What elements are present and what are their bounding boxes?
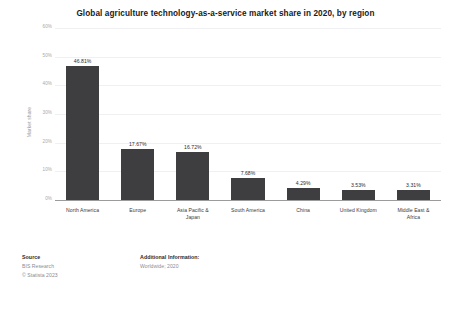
bar-slot[interactable]: 17.67% bbox=[110, 28, 165, 200]
bar-value-label: 3.31% bbox=[406, 182, 421, 188]
category-label: North America bbox=[55, 207, 110, 240]
footer-source-lines: BIS Research© Statista 2023 bbox=[22, 262, 140, 279]
bar[interactable] bbox=[121, 149, 154, 200]
bar-value-label: 17.67% bbox=[129, 141, 147, 147]
category-label: South America bbox=[220, 207, 275, 240]
bar[interactable] bbox=[397, 190, 430, 199]
plot-area: Market share 0%10%20%30%40%50%60% 46.81%… bbox=[22, 28, 441, 240]
category-label-line: South America bbox=[221, 207, 274, 215]
footer-source-block: Source BIS Research© Statista 2023 bbox=[22, 254, 140, 279]
category-label: China bbox=[276, 207, 331, 240]
bar-value-label: 46.81% bbox=[74, 58, 92, 64]
bar-value-label: 4.29% bbox=[296, 180, 311, 186]
chart-footer: Source BIS Research© Statista 2023 Addit… bbox=[22, 254, 429, 279]
category-label-line: Japan bbox=[166, 214, 219, 222]
chart-card: Global agriculture technology-as-a-servi… bbox=[0, 0, 451, 328]
y-axis-tick-label: 60% bbox=[35, 24, 52, 29]
plot-inner: 0%10%20%30%40%50%60% 46.81%17.67%16.72%7… bbox=[35, 28, 441, 240]
bar-slot[interactable]: 7.68% bbox=[220, 28, 275, 200]
footer-additional-heading: Additional Information: bbox=[140, 254, 199, 260]
axis-baseline bbox=[55, 200, 441, 201]
chart-title: Global agriculture technology-as-a-servi… bbox=[18, 9, 433, 19]
y-axis-tick-label: 40% bbox=[35, 81, 52, 86]
category-label: United Kingdom bbox=[331, 207, 386, 240]
bar-value-label: 16.72% bbox=[184, 144, 202, 150]
category-label-line: Europe bbox=[111, 207, 164, 215]
bar-slot[interactable]: 3.53% bbox=[331, 28, 386, 200]
category-label-line: Asia Pacific & bbox=[166, 207, 219, 215]
footer-additional-line: Worldwide; 2020 bbox=[140, 262, 199, 270]
bars-layer: 46.81%17.67%16.72%7.68%4.29%3.53%3.31% bbox=[55, 28, 441, 200]
y-axis-tick-label: 30% bbox=[35, 110, 52, 115]
bar[interactable] bbox=[231, 178, 264, 200]
category-label: Asia Pacific &Japan bbox=[165, 207, 220, 240]
y-axis-title-label: Market share bbox=[27, 107, 33, 137]
bar[interactable] bbox=[66, 66, 99, 200]
bar[interactable] bbox=[342, 190, 375, 200]
y-axis-tick-label: 20% bbox=[35, 139, 52, 144]
footer-source-heading: Source bbox=[22, 254, 140, 260]
bar[interactable] bbox=[287, 188, 320, 200]
y-axis-title: Market share bbox=[24, 28, 35, 216]
bar[interactable] bbox=[176, 152, 209, 200]
bar-slot[interactable]: 16.72% bbox=[165, 28, 220, 200]
y-axis-tick-label: 0% bbox=[35, 196, 52, 201]
bar-slot[interactable]: 4.29% bbox=[276, 28, 331, 200]
footer-source-line: BIS Research bbox=[22, 262, 140, 270]
category-label-line: Middle East & bbox=[387, 207, 440, 215]
category-label-line: United Kingdom bbox=[332, 207, 385, 215]
category-label-line: North America bbox=[56, 207, 109, 215]
bar-value-label: 3.53% bbox=[351, 182, 366, 188]
category-label: Europe bbox=[110, 207, 165, 240]
category-label: Middle East &Africa bbox=[386, 207, 441, 240]
footer-additional-block: Additional Information: Worldwide; 2020 bbox=[140, 254, 199, 271]
footer-additional-lines: Worldwide; 2020 bbox=[140, 262, 199, 270]
category-label-line: Africa bbox=[387, 214, 440, 222]
footer-source-line: © Statista 2023 bbox=[22, 271, 140, 279]
y-axis-tick-label: 50% bbox=[35, 53, 52, 58]
bar-slot[interactable]: 46.81% bbox=[55, 28, 110, 200]
category-labels: North AmericaEuropeAsia Pacific &JapanSo… bbox=[55, 202, 441, 240]
category-label-line: China bbox=[277, 207, 330, 215]
bar-slot[interactable]: 3.31% bbox=[386, 28, 441, 200]
y-axis-tick-label: 10% bbox=[35, 167, 52, 172]
bar-value-label: 7.68% bbox=[241, 170, 256, 176]
